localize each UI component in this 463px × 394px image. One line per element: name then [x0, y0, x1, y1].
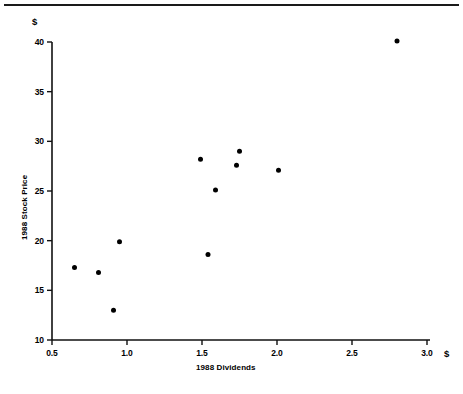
y-axis-tick-label: 10: [16, 336, 44, 345]
data-point: [72, 265, 77, 270]
y-axis-title: 1988 Stock Price: [21, 175, 29, 240]
x-axis-tick-label: 1.5: [186, 349, 218, 358]
data-point: [96, 270, 101, 275]
y-axis-tick-label: 20: [16, 237, 44, 246]
x-axis-tick-label: 0.5: [36, 349, 68, 358]
y-axis-tick-label: 25: [16, 187, 44, 196]
x-axis-tick-label: 1.0: [111, 349, 143, 358]
data-point: [198, 157, 203, 162]
data-point: [111, 308, 116, 313]
scatter-plot-figure: $ $ 1988 Stock Price 1988 Dividends 1015…: [0, 0, 463, 394]
y-axis-unit-symbol: $: [32, 17, 37, 27]
data-point: [206, 252, 211, 257]
plot-canvas: [0, 0, 463, 394]
y-axis-tick-label: 15: [16, 286, 44, 295]
y-axis-tick-label: 40: [16, 38, 44, 47]
x-axis-tick-label: 2.0: [261, 349, 293, 358]
data-point: [276, 168, 281, 173]
data-point: [234, 163, 239, 168]
y-axis-tick-label: 30: [16, 137, 44, 146]
x-axis-title: 1988 Dividends: [196, 364, 256, 372]
x-axis-tick-label: 3.0: [411, 349, 443, 358]
x-axis-tick-label: 2.5: [336, 349, 368, 358]
data-point: [395, 39, 400, 44]
data-point: [213, 188, 218, 193]
data-point: [117, 239, 122, 244]
data-point: [237, 149, 242, 154]
y-axis-tick-label: 35: [16, 88, 44, 97]
data-point-group: [72, 39, 400, 313]
x-axis-unit-symbol: $: [444, 349, 449, 359]
